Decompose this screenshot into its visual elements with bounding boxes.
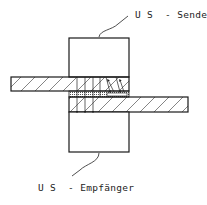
receiver-label: U S - Empfänger: [38, 182, 134, 193]
defect-gap: [107, 93, 127, 96]
sender-label: U S - Sender: [135, 9, 207, 20]
sender-leader: [99, 16, 128, 37]
upper-sheet: [11, 77, 129, 91]
weld-diagram: [0, 0, 207, 205]
receiver-block: [69, 112, 129, 152]
receiver-leader: [72, 153, 99, 176]
diagram-canvas: U S - Sender U S - Empfänger: [0, 0, 207, 205]
lower-sheet: [69, 97, 188, 112]
sender-block: [69, 38, 129, 77]
